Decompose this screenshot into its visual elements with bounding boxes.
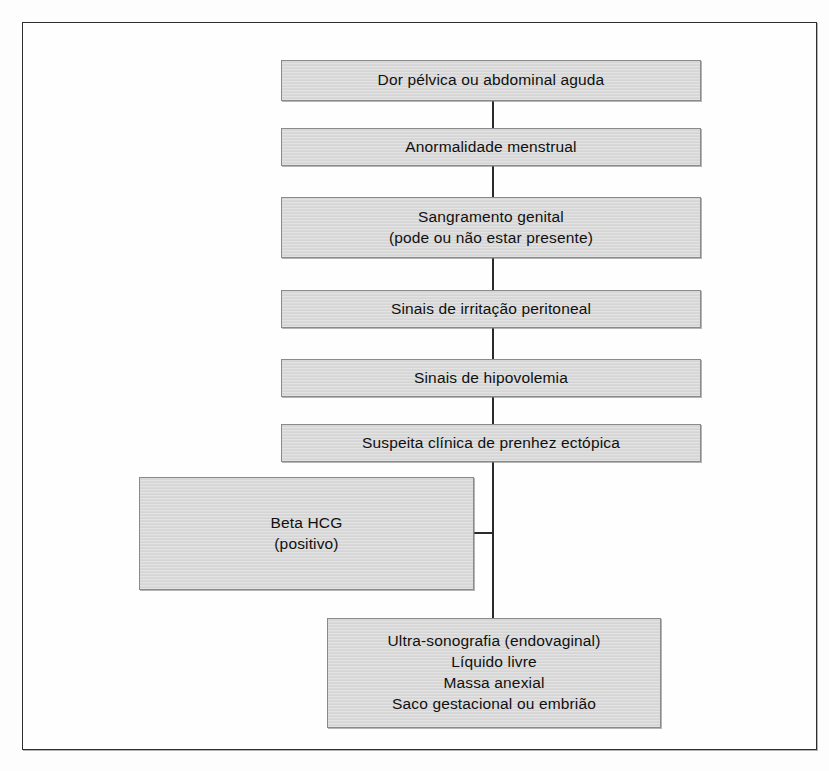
connector-suspeita-spine-down [492,462,494,618]
flow-node-label: Dor pélvica ou abdominal aguda [372,70,611,91]
flow-node-label: Beta HCG (positivo) [265,513,349,555]
connector-anormalidade-to-sangramento [492,166,494,197]
screenshot-root: Dor pélvica ou abdominal agudaAnormalida… [0,0,829,771]
flow-node-label: Ultra-sonografia (endovaginal) Líquido l… [381,631,606,714]
connector-sangramento-to-irritacao [492,258,494,290]
flow-node-label: Anormalidade menstrual [399,137,582,158]
flow-node-label: Sinais de irritação peritoneal [385,299,597,320]
connector-irritacao-to-hipovolemia [492,328,494,359]
flow-node-label: Sinais de hipovolemia [408,368,574,389]
flow-node-irritacao-peritoneal: Sinais de irritação peritoneal [281,290,701,328]
flow-node-label: Sangramento genital (pode ou não estar p… [383,207,599,249]
flow-node-suspeita-clinica: Suspeita clínica de prenhez ectópica [281,424,701,462]
flow-node-dor-pelvica: Dor pélvica ou abdominal aguda [281,60,701,101]
connector-dor-to-anormalidade [492,101,494,128]
flow-node-beta-hcg: Beta HCG (positivo) [139,477,474,590]
flowchart-canvas: Dor pélvica ou abdominal agudaAnormalida… [0,0,829,771]
flow-node-anormalidade-menstrual: Anormalidade menstrual [281,128,701,166]
connector-hipovolemia-to-suspeita [492,397,494,424]
flow-node-ultrassonografia: Ultra-sonografia (endovaginal) Líquido l… [327,618,661,728]
connector-spine-to-beta-hcg [473,532,494,534]
flow-node-hipovolemia: Sinais de hipovolemia [281,359,701,397]
flow-node-label: Suspeita clínica de prenhez ectópica [356,433,626,454]
flow-node-sangramento-genital: Sangramento genital (pode ou não estar p… [281,197,701,258]
